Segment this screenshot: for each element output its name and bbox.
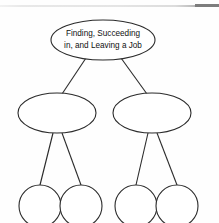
connector-root-to-branch-left xyxy=(62,58,86,94)
branch-node-right[interactable] xyxy=(113,93,191,133)
branch-node-left[interactable] xyxy=(18,93,96,133)
concept-map-diagram: Finding, Succeeding in, and Leaving a Jo… xyxy=(0,0,219,223)
connector-branch-left-to-leaf-1 xyxy=(40,133,53,185)
leaf-node-group xyxy=(19,185,198,223)
connector-branch-left-to-leaf-2 xyxy=(62,133,81,185)
connector-root-to-branch-right xyxy=(121,58,147,94)
leaf-node-4[interactable] xyxy=(156,185,198,223)
leaf-node-1[interactable] xyxy=(19,185,61,223)
root-node-label-line-1: Finding, Succeeding xyxy=(66,29,141,38)
connector-branch-right-to-leaf-3 xyxy=(136,133,148,185)
root-node-label-line-2: in, and Leaving a Job xyxy=(64,41,142,50)
connector-branch-right-to-leaf-4 xyxy=(157,133,177,185)
branch-node-group xyxy=(18,93,191,133)
leaf-node-3[interactable] xyxy=(115,185,157,223)
root-node[interactable] xyxy=(51,20,155,60)
root-node-group: Finding, Succeeding in, and Leaving a Jo… xyxy=(51,20,155,60)
leaf-node-2[interactable] xyxy=(60,185,102,223)
diagram-page: Finding, Succeeding in, and Leaving a Jo… xyxy=(0,0,219,223)
